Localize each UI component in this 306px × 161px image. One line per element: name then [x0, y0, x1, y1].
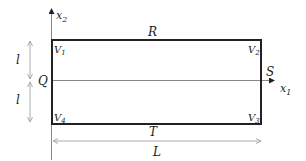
x2-axis-label: x2 [56, 9, 67, 24]
side-label-Q: Q [38, 74, 48, 88]
vertex-label-V1: V1 [54, 44, 66, 57]
dimension-label-L: L [152, 145, 161, 159]
vertex-label-V2: V2 [248, 44, 260, 57]
side-label-S: S [266, 65, 274, 79]
dimension-label-upper-l: l [16, 53, 20, 67]
side-label-R: R [147, 25, 157, 39]
dimension-label-lower-l: l [16, 93, 20, 107]
domain-rectangle [52, 40, 261, 124]
x1-axis-label: x1 [280, 82, 291, 97]
side-label-T: T [149, 125, 158, 139]
domain-diagram: x2 x1 R S T Q V1 V2 V3 V4 l l L [0, 0, 306, 161]
